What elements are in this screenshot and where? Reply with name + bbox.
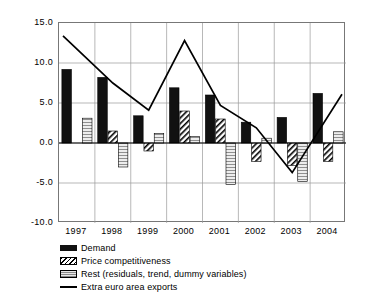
y-axis-tick-label: 0.0: [5, 138, 53, 147]
y-axis-tick-label: 15.0: [5, 18, 53, 27]
bar: [154, 133, 164, 143]
x-axis-tick-label: 1999: [130, 225, 166, 239]
bar: [108, 131, 118, 143]
bar: [98, 77, 108, 143]
plot-area: [58, 22, 345, 222]
x-axis: 1997 1998 1999 2000 2001 2002 2003 2004: [58, 225, 345, 239]
legend-item-extra-euro-area-exports: Extra euro area exports: [60, 280, 360, 293]
x-axis-tick-label: 1997: [58, 225, 94, 239]
y-axis-tick-label: 10.0: [5, 58, 53, 67]
chart-figure: 15.0 10.0 5.0 0.0 -5.0 -10.0 1997: [0, 0, 377, 297]
x-axis-tick-label: 2003: [273, 225, 309, 239]
chart-legend: Demand Price competitiveness Rest (resid…: [60, 241, 360, 293]
legend-item-rest: Rest (residuals, trend, dummy variables): [60, 267, 360, 280]
bar: [323, 143, 333, 161]
x-axis-tick-label: 1998: [94, 225, 130, 239]
legend-item-label: Demand: [81, 243, 116, 253]
bar-group-2004: [313, 93, 343, 161]
bar: [226, 143, 236, 185]
legend-item-price-competitiveness: Price competitiveness: [60, 254, 360, 267]
legend-item-demand: Demand: [60, 241, 360, 254]
bar: [334, 132, 344, 143]
bar: [205, 95, 215, 143]
legend-item-label: Extra euro area exports: [81, 282, 177, 292]
plot-canvas: [59, 23, 346, 223]
bar-group-1999: [134, 116, 164, 151]
x-axis-tick-label: 2002: [237, 225, 273, 239]
legend-item-label: Price competitiveness: [81, 256, 171, 266]
hatched-bar-swatch-icon: [60, 257, 77, 265]
bar: [241, 122, 251, 143]
bar: [82, 118, 92, 143]
y-axis-tick-label: -10.0: [5, 218, 53, 227]
x-axis-tick-label: 2001: [202, 225, 238, 239]
bar: [180, 111, 190, 143]
x-axis-tick-label: 2000: [166, 225, 202, 239]
bar: [62, 69, 72, 143]
bar: [170, 88, 180, 143]
line-swatch-icon: [60, 283, 77, 291]
bar: [144, 143, 154, 151]
bar: [277, 117, 287, 143]
x-axis-tick-label: 2004: [309, 225, 345, 239]
grey-bar-swatch-icon: [60, 270, 77, 278]
bar: [216, 119, 226, 143]
bar-group-1997: [62, 69, 92, 143]
y-axis-tick-label: -5.0: [5, 178, 53, 187]
solid-black-bar-swatch-icon: [60, 245, 77, 251]
bar-group-2001: [205, 95, 235, 185]
bar: [118, 143, 128, 167]
bar: [190, 137, 200, 143]
y-axis-tick-label: 5.0: [5, 98, 53, 107]
bar-group-2000: [170, 88, 200, 143]
bar: [134, 116, 144, 143]
legend-item-label: Rest (residuals, trend, dummy variables): [81, 269, 247, 279]
bar: [287, 143, 297, 165]
bar: [313, 93, 323, 143]
bar: [252, 143, 262, 161]
